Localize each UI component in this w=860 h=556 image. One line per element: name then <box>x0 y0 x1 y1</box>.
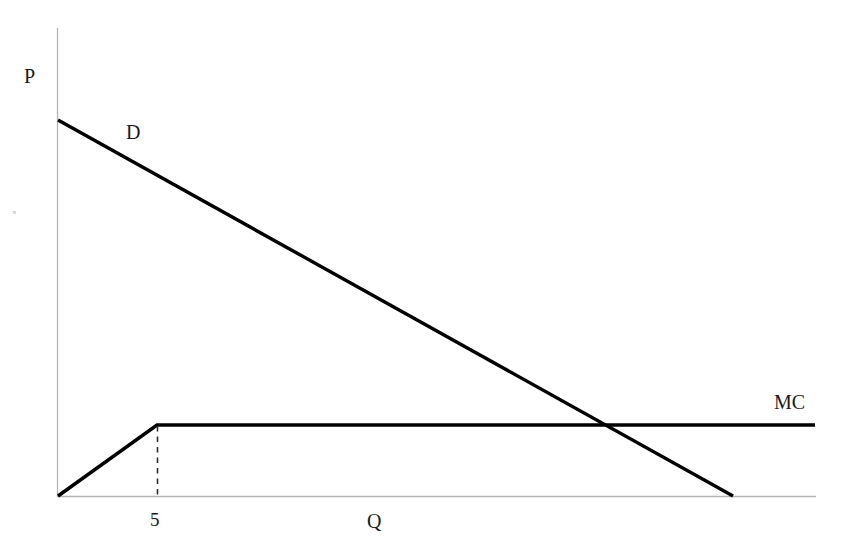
demand-curve <box>58 120 733 496</box>
x-axis-label: Q <box>367 511 381 531</box>
marginal-cost-curve-label: MC <box>774 392 805 412</box>
scan-artifact-speck <box>13 211 16 214</box>
demand-curve-label: D <box>126 122 140 142</box>
chart-canvas <box>0 0 860 556</box>
y-axis-label: P <box>24 66 35 86</box>
marginal-cost-curve <box>58 425 815 496</box>
x-tick-label-5: 5 <box>150 510 160 529</box>
economics-chart: P Q D MC 5 <box>0 0 860 556</box>
